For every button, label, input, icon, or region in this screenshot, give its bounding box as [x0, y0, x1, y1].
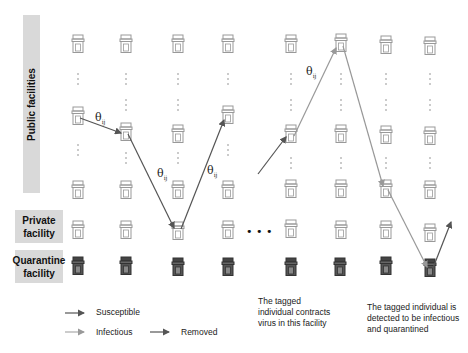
facility-icon — [380, 221, 392, 239]
facility-icon — [285, 35, 297, 53]
facility-icons-light — [72, 34, 436, 242]
facility-icon — [172, 125, 184, 143]
facility-icon — [424, 37, 436, 55]
facility-icon — [72, 221, 84, 239]
facility-icon — [380, 126, 392, 144]
theta-label: θij — [207, 164, 218, 179]
facility-icon — [172, 181, 184, 199]
facility-icon — [335, 221, 347, 239]
vertical-ellipsis-dots — [77, 73, 431, 169]
right-trajectory — [258, 46, 451, 268]
note-quarantined: The tagged individual is detected to be … — [367, 302, 459, 335]
horizontal-ellipsis: • • • — [246, 225, 272, 238]
facility-icon — [335, 180, 347, 198]
facility-icon — [120, 35, 132, 53]
facility-icon — [285, 180, 297, 198]
facility-icon — [120, 181, 132, 199]
facility-icon — [285, 220, 297, 238]
facility-icon — [335, 125, 347, 143]
facility-icon — [222, 35, 234, 53]
theta-label: θij — [306, 65, 317, 80]
facility-icon — [335, 34, 347, 52]
facility-network-diagram: • • • θij θij θij θij — [0, 0, 468, 353]
legend-infectious-label: Infectious — [96, 327, 132, 337]
theta-label: θij — [95, 111, 106, 126]
theta-label: θij — [157, 167, 168, 182]
legend-removed-label: Removed — [181, 327, 217, 337]
facility-icon — [222, 221, 234, 239]
facility-icon — [424, 127, 436, 145]
facility-icon — [424, 224, 436, 242]
facility-icon — [72, 107, 84, 125]
facility-icon — [424, 181, 436, 199]
quarantine-facility-icons — [72, 257, 436, 277]
facility-icon — [222, 181, 234, 199]
facility-icon — [72, 35, 84, 53]
left-trajectory — [80, 118, 224, 229]
facility-icon — [72, 181, 84, 199]
note-contracts-virus: The tagged individual contracts virus in… — [258, 296, 330, 329]
facility-icon — [172, 35, 184, 53]
facility-icon — [120, 221, 132, 239]
legend-susceptible-label: Susceptible — [96, 307, 140, 317]
facility-icon — [380, 36, 392, 54]
